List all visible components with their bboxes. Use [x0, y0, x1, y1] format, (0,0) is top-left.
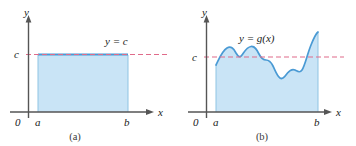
panel-b-x-tick-label-b: b — [314, 116, 320, 128]
panel-a-y-axis-label: y — [23, 6, 29, 18]
panel-a-x-tick-label-b: b — [124, 116, 130, 128]
panel-a-shaded-region — [38, 55, 128, 112]
panel-b-x-axis-arrow — [324, 109, 332, 115]
panel-b-caption: (b) — [256, 131, 269, 143]
panel-b-curve-label: y = g(x) — [238, 32, 275, 45]
panel-b-x-axis-label: x — [335, 106, 341, 118]
panel-a-x-axis-label: x — [157, 106, 163, 118]
two-panel-figure: x y c 0 a b y = c (a) x y c 0 a b y = g(… — [0, 0, 356, 146]
panel-b: x y c 0 a b y = g(x) (b) — [188, 6, 344, 143]
panel-a-curve-label: y = c — [104, 35, 128, 47]
panel-b-y-tick-label-c: c — [192, 51, 197, 63]
panel-a-x-tick-label-a: a — [35, 116, 41, 128]
panel-b-x-tick-label-a: a — [213, 116, 219, 128]
panel-b-shaded-region — [216, 32, 318, 112]
panel-a: x y c 0 a b y = c (a) — [10, 6, 168, 143]
panel-a-caption: (a) — [69, 131, 81, 143]
panel-b-origin-label: 0 — [193, 116, 199, 128]
panel-a-x-axis-arrow — [146, 109, 154, 115]
panel-b-y-axis-label: y — [201, 6, 207, 18]
panel-a-origin-label: 0 — [15, 116, 21, 128]
panel-a-y-tick-label-c: c — [14, 48, 19, 60]
